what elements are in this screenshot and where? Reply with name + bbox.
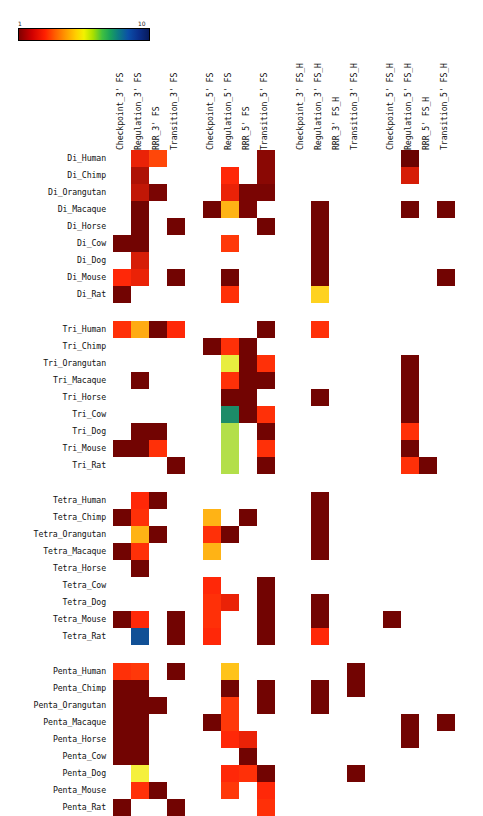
row-label: Tri_Cow (6, 406, 106, 423)
heatmap-cell (131, 252, 149, 269)
heatmap-cell (113, 611, 131, 628)
heatmap-cell (131, 765, 149, 782)
heatmap-cell (311, 680, 329, 697)
heatmap-cell (131, 235, 149, 252)
row-label: Di_Mouse (6, 269, 106, 286)
heatmap-cell (221, 406, 239, 423)
row-label: Penta_Mouse (6, 782, 106, 799)
heatmap-cell (113, 680, 131, 697)
heatmap-cell (257, 406, 275, 423)
heatmap-cell (401, 457, 419, 474)
heatmap-cell (149, 423, 167, 440)
heatmap-cell (203, 611, 221, 628)
heatmap-cell (149, 492, 167, 509)
heatmap-cell (203, 714, 221, 731)
heatmap-cell (113, 714, 131, 731)
row-label: Tri_Horse (6, 389, 106, 406)
column-label: Transition_5' FS_H (437, 58, 451, 150)
heatmap-cell (221, 235, 239, 252)
heatmap-cell (167, 799, 185, 816)
heatmap-cell (221, 714, 239, 731)
heatmap-cell (221, 457, 239, 474)
heatmap-cell (131, 543, 149, 560)
heatmap-cell (131, 526, 149, 543)
heatmap-cell (383, 611, 401, 628)
heatmap-cell (257, 697, 275, 714)
heatmap-cell (257, 594, 275, 611)
row-label: Di_Rat (6, 286, 106, 303)
heatmap-cell (311, 269, 329, 286)
heatmap-cell (149, 440, 167, 457)
heatmap-cell (311, 492, 329, 509)
heatmap-cell (257, 577, 275, 594)
heatmap-cell (167, 663, 185, 680)
row-label: Penta_Chimp (6, 680, 106, 697)
heatmap-cell (257, 184, 275, 201)
heatmap-cell (221, 663, 239, 680)
column-label: Regulation_3' FS_H (311, 58, 325, 150)
heatmap-cell (113, 286, 131, 303)
heatmap-cell (239, 389, 257, 406)
row-label: Tri_Chimp (6, 338, 106, 355)
column-label: Regulation_5' FS_H (401, 58, 415, 150)
heatmap-cell (239, 731, 257, 748)
heatmap-cell (221, 184, 239, 201)
heatmap-cell (113, 731, 131, 748)
heatmap-cell (203, 628, 221, 645)
row-label: Di_Orangutan (6, 184, 106, 201)
heatmap-cell (257, 423, 275, 440)
heatmap-cell (113, 440, 131, 457)
heatmap-cell (149, 697, 167, 714)
heatmap-cell (167, 218, 185, 235)
heatmap-cell (113, 799, 131, 816)
heatmap-cell (401, 714, 419, 731)
heatmap-cell (401, 440, 419, 457)
heatmap-cell (401, 150, 419, 167)
column-label: Regulation_5' FS (221, 58, 235, 150)
heatmap-cell (131, 201, 149, 218)
heatmap-cell (149, 782, 167, 799)
heatmap-cell (221, 355, 239, 372)
heatmap-cell (221, 372, 239, 389)
heatmap-cell (401, 355, 419, 372)
heatmap-cell (131, 321, 149, 338)
heatmap-cell (257, 355, 275, 372)
heatmap-cell (239, 201, 257, 218)
heatmap-cell (221, 338, 239, 355)
heatmap-cell (221, 167, 239, 184)
heatmap-cell (113, 663, 131, 680)
heatmap-cell (221, 731, 239, 748)
column-label: Checkpoint_3' FS (113, 58, 127, 150)
heatmap-cell (257, 150, 275, 167)
heatmap-cell (311, 218, 329, 235)
row-label: Penta_Cow (6, 748, 106, 765)
heatmap-cell (257, 628, 275, 645)
heatmap-cell (221, 526, 239, 543)
heatmap-cell (257, 440, 275, 457)
heatmap-cell (113, 509, 131, 526)
row-label: Di_Human (6, 150, 106, 167)
heatmap-cell (257, 218, 275, 235)
heatmap-cell (221, 765, 239, 782)
row-label: Tetra_Mouse (6, 611, 106, 628)
column-label: Transition_3' FS_H (347, 58, 361, 150)
heatmap-cell (239, 184, 257, 201)
heatmap-cell (203, 543, 221, 560)
heatmap-cell (437, 201, 455, 218)
heatmap-cell (221, 389, 239, 406)
column-label-axis: Checkpoint_3' FSRegulation_3' FSRRR_3' F… (0, 55, 483, 150)
heatmap-cell (257, 799, 275, 816)
heatmap-cell (257, 321, 275, 338)
row-label: Tetra_Dog (6, 594, 106, 611)
heatmap-cell (311, 252, 329, 269)
heatmap-cell (203, 201, 221, 218)
heatmap-cell (257, 457, 275, 474)
heatmap-cell (401, 201, 419, 218)
heatmap-cell (347, 663, 365, 680)
colorbar-max-label: 10 (138, 20, 146, 27)
heatmap-cell (131, 628, 149, 645)
column-label: RRR_3' FS (149, 58, 163, 150)
row-label: Tri_Macaque (6, 372, 106, 389)
row-label: Penta_Rat (6, 799, 106, 816)
